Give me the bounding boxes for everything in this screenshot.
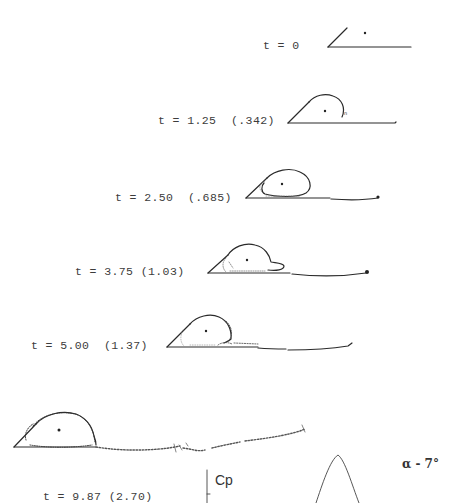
time-label-t375: t = 3.75 (1.03) xyxy=(75,265,185,278)
cp-axis-label: Cp xyxy=(215,472,233,488)
time-label-t987: t = 9.87 (2.70) xyxy=(43,490,153,503)
panel-t375-wedge xyxy=(208,244,366,276)
panel-t0-wedge xyxy=(328,28,411,47)
vortex-rollup-figure: n xyxy=(0,0,453,503)
panel-t125-wedge xyxy=(288,95,396,123)
time-label-t500: t = 5.00 (1.37) xyxy=(31,339,148,352)
panel-t987-wedge xyxy=(14,412,96,447)
cp-curve xyxy=(316,455,359,503)
panel-t250-wedge xyxy=(246,170,378,200)
time-label-t0: t = 0 xyxy=(263,39,300,52)
time-label-t250: t = 2.50 (.685) xyxy=(115,191,232,204)
alpha-label: α - 7° xyxy=(402,457,439,471)
svg-text:n: n xyxy=(344,110,347,116)
time-label-t125: t = 1.25 (.342) xyxy=(158,114,275,127)
